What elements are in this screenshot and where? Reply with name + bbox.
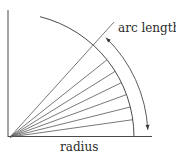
- arc-length-label: arc length: [118, 22, 176, 34]
- radius-label: radius: [60, 141, 98, 153]
- arrow-head-bottom-icon: [146, 125, 150, 130]
- radial-line: [10, 22, 114, 137]
- radial-lines: [10, 22, 133, 137]
- arc-length-arrow: [106, 38, 148, 130]
- radial-line: [10, 107, 130, 137]
